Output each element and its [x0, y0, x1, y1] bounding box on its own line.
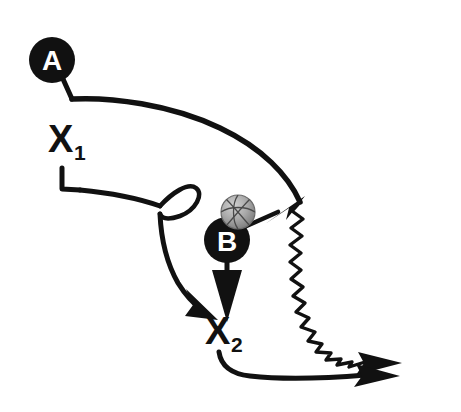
player-x1-label: X	[48, 118, 74, 160]
play-diagram-canvas: A B	[0, 0, 461, 412]
player-x1-subscript: 1	[74, 141, 86, 164]
play-diagram-svg: A B	[0, 0, 461, 412]
player-a-label: A	[42, 45, 62, 76]
basketball-icon	[221, 195, 255, 229]
player-x2-label: X	[205, 310, 231, 352]
player-x2-subscript: 2	[231, 333, 243, 356]
player-marker-a[interactable]: A	[29, 37, 75, 83]
player-b-label: B	[217, 226, 237, 257]
